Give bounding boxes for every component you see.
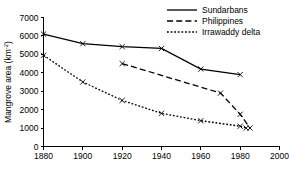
legend-item-philippines: Philippines [167, 16, 243, 26]
y-tick-label: 1000 [20, 123, 39, 133]
x-tick-label: 1880 [34, 151, 53, 161]
y-tick-label: 6000 [20, 31, 39, 41]
data-point-marker [80, 79, 85, 84]
series-line [44, 34, 241, 75]
data-point-marker [120, 98, 125, 103]
y-tick-label: 4000 [20, 68, 39, 78]
x-tick-label: 2000 [270, 151, 289, 161]
legend-label: Sundarbans [202, 5, 248, 15]
y-axis-title-main: Mangrove area (km [3, 49, 13, 123]
y-axis: 01000200030004000500060007000 [20, 13, 44, 152]
y-axis-title-close: ) [3, 41, 13, 44]
x-tick-label: 1960 [191, 151, 210, 161]
x-tick-label: 1920 [113, 151, 132, 161]
x-tick-label: 1980 [231, 151, 250, 161]
chart-canvas: 01000200030004000500060007000 1880190019… [0, 0, 290, 170]
chart-legend: SundarbansPhilippinesIrrawaddy delta [167, 5, 260, 37]
series-layer [41, 31, 253, 130]
mangrove-area-line-chart: 01000200030004000500060007000 1880190019… [0, 0, 290, 170]
y-axis-title: Mangrove area (km-2) [3, 41, 13, 123]
x-axis: 1880190019201940196019802000 [34, 147, 289, 161]
data-point-marker [218, 90, 223, 95]
y-tick-label: 3000 [20, 86, 39, 96]
series-sundarbans [41, 31, 243, 77]
x-tick-label: 1940 [152, 151, 171, 161]
legend-label: Irrawaddy delta [202, 27, 260, 37]
series-irrawaddy-delta [41, 53, 249, 131]
y-axis-title-text: Mangrove area (km-2) [3, 41, 13, 123]
legend-item-irrawaddy-delta: Irrawaddy delta [167, 27, 260, 37]
y-tick-label: 7000 [20, 13, 39, 23]
legend-label: Philippines [202, 16, 243, 26]
y-tick-label: 2000 [20, 105, 39, 115]
series-philippines [120, 61, 253, 131]
data-point-marker [238, 112, 243, 117]
x-tick-label: 1900 [73, 151, 92, 161]
legend-item-sundarbans: Sundarbans [167, 5, 248, 15]
y-tick-label: 5000 [20, 49, 39, 59]
